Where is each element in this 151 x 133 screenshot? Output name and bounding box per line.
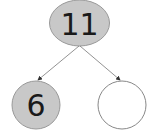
arrow-left [38, 46, 79, 80]
whole-value: 11 [60, 7, 98, 42]
part-node-left: 6 [12, 81, 60, 129]
number-bond-diagram: 11 6 [0, 0, 151, 133]
whole-node: 11 [50, 0, 110, 46]
arrow-right [80, 46, 120, 80]
part-node-right[interactable] [98, 81, 146, 129]
part-left-value: 6 [26, 88, 45, 123]
